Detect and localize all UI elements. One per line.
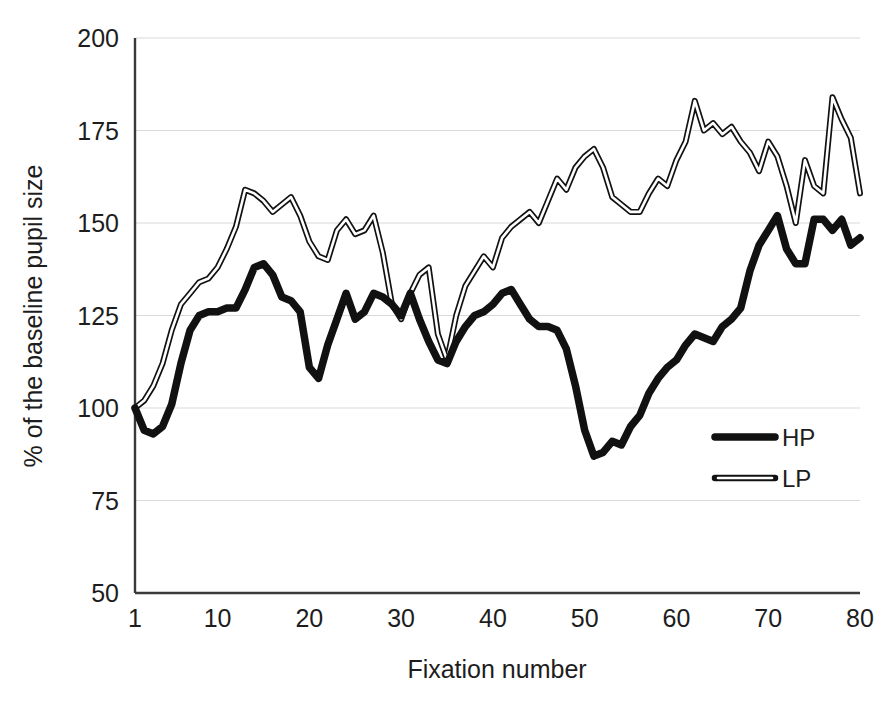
- x-tick-label-10: 10: [204, 604, 232, 632]
- y-tick-label-175: 175: [77, 117, 119, 145]
- legend: HP LP: [715, 424, 815, 492]
- data-series-group: [135, 97, 860, 456]
- x-tick-labels-group: 11020304050607080: [128, 604, 874, 632]
- y-tick-label-75: 75: [91, 487, 119, 515]
- y-tick-label-100: 100: [77, 394, 119, 422]
- y-tick-label-125: 125: [77, 302, 119, 330]
- legend-item-hp: HP: [715, 424, 815, 451]
- pupil-size-line-chart: 5075100125150175200 11020304050607080 Fi…: [0, 0, 890, 707]
- x-tick-label-20: 20: [295, 604, 323, 632]
- x-tick-label-80: 80: [846, 604, 874, 632]
- y-tick-label-150: 150: [77, 209, 119, 237]
- x-tick-label-30: 30: [387, 604, 415, 632]
- series-line-lp-inner: [135, 97, 860, 408]
- y-tick-label-200: 200: [77, 24, 119, 52]
- x-tick-label-1: 1: [128, 604, 142, 632]
- x-tick-label-60: 60: [663, 604, 691, 632]
- x-tick-label-40: 40: [479, 604, 507, 632]
- y-tick-labels-group: 5075100125150175200: [77, 24, 119, 607]
- chart-canvas: 5075100125150175200 11020304050607080 Fi…: [0, 0, 890, 707]
- legend-label-hp: HP: [782, 424, 815, 451]
- x-tick-label-50: 50: [571, 604, 599, 632]
- x-axis-title: Fixation number: [407, 655, 586, 683]
- y-tick-label-50: 50: [91, 579, 119, 607]
- y-axis-title: % of the baseline pupil size: [19, 165, 47, 468]
- x-tick-label-70: 70: [754, 604, 782, 632]
- legend-item-lp: LP: [715, 465, 811, 492]
- legend-label-lp: LP: [782, 465, 811, 492]
